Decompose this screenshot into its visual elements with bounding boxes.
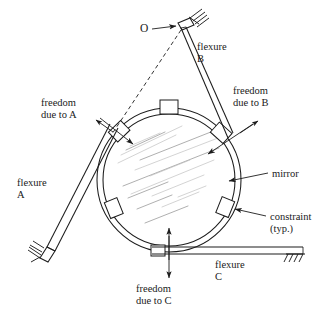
mirror-label: mirror: [272, 168, 299, 179]
freedom-b-label-line1: freedom: [233, 85, 268, 96]
flexure-b-label-line2: B: [197, 53, 204, 64]
constraint-block-top[interactable]: [160, 100, 178, 114]
constraint-leader: [235, 209, 266, 216]
pivot-o-label: O: [140, 22, 148, 34]
pivot-block: [178, 18, 194, 30]
freedom-c-label-line1: freedom: [136, 283, 171, 294]
flexure-c[interactable]: [152, 247, 303, 254]
flexure-b-label-line1: flexure: [197, 41, 227, 52]
pivot-o-callout: O: [140, 22, 176, 34]
label-constraint: constraint (typ.): [270, 211, 311, 235]
freedom-a-label-line1: freedom: [41, 97, 76, 108]
constraint-label-line2: (typ.): [270, 223, 294, 235]
label-flexure-a: flexure A: [17, 177, 47, 200]
flexure-a-ground-support: [28, 241, 55, 262]
ground-hatch-top: [189, 9, 209, 27]
flexure-c-ground-support: [284, 254, 305, 262]
freedom-b-label-line2: due to B: [233, 97, 269, 108]
freedom-a-label-line2: due to A: [41, 109, 77, 120]
ground-hatch-right: [284, 254, 303, 262]
pivot-ground-support: [178, 9, 209, 30]
label-freedom-a: freedom due to A: [41, 97, 77, 120]
freedom-due-to-b-arrow-reverse: [240, 121, 258, 133]
constraint-label-line1: constraint: [270, 211, 311, 222]
freedom-c-label-line2: due to C: [136, 295, 172, 306]
flexure-c-label-line2: C: [215, 271, 222, 282]
label-freedom-c: freedom due to C: [136, 283, 172, 306]
constraint-block: [160, 100, 178, 114]
label-flexure-b: flexure B: [197, 41, 227, 64]
mirror-flexure-diagram: O: [0, 0, 331, 317]
pivot-o-leader: [152, 26, 176, 29]
flexure-a-foot: [40, 247, 55, 262]
label-mirror: mirror: [272, 168, 299, 179]
flexure-a-label-line2: A: [17, 189, 25, 200]
figure-canvas: O: [0, 0, 331, 317]
label-freedom-b: freedom due to B: [233, 85, 269, 108]
flexure-a-label-line1: flexure: [17, 177, 47, 188]
label-flexure-c: flexure C: [215, 259, 245, 282]
flexure-c-label-line1: flexure: [215, 259, 245, 270]
